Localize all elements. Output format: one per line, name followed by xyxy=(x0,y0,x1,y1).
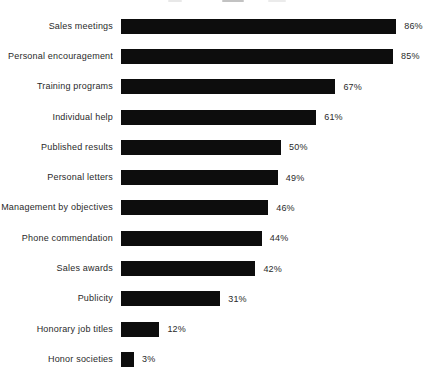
value-label: 67% xyxy=(343,82,362,92)
category-label: Sales awards xyxy=(0,263,113,274)
artifact-dash xyxy=(222,0,244,2)
chart-row: Publicity31% xyxy=(0,284,437,314)
bar xyxy=(121,200,268,215)
chart-row: Management by objectives46% xyxy=(0,193,437,223)
chart-row: Phone commendation44% xyxy=(0,223,437,253)
category-label: Publicity xyxy=(0,293,113,304)
bar-chart: Sales meetings86%Personal encouragement8… xyxy=(0,0,437,381)
value-label: 50% xyxy=(289,142,308,152)
bar xyxy=(121,140,281,155)
category-label: Phone commendation xyxy=(0,233,113,244)
cropped-title-artifact xyxy=(0,0,437,3)
value-label: 46% xyxy=(276,203,295,213)
category-label: Management by objectives xyxy=(0,202,113,213)
bar xyxy=(121,79,335,94)
category-label: Personal encouragement xyxy=(0,51,113,62)
category-label: Published results xyxy=(0,142,113,153)
chart-row: Sales meetings86% xyxy=(0,11,437,41)
bar xyxy=(121,291,220,306)
category-label: Personal letters xyxy=(0,172,113,183)
chart-row: Honorary job titles12% xyxy=(0,314,437,344)
artifact-dash xyxy=(268,0,286,2)
value-label: 42% xyxy=(263,264,282,274)
value-label: 44% xyxy=(270,233,289,243)
bar xyxy=(121,261,255,276)
chart-row: Individual help61% xyxy=(0,102,437,132)
value-label: 49% xyxy=(286,173,305,183)
chart-row: Personal letters49% xyxy=(0,162,437,192)
value-label: 86% xyxy=(404,21,423,31)
bar xyxy=(121,110,316,125)
chart-row: Published results50% xyxy=(0,132,437,162)
bar xyxy=(121,322,159,337)
value-label: 85% xyxy=(401,51,420,61)
chart-row: Honor societies3% xyxy=(0,344,437,374)
chart-row: Sales awards42% xyxy=(0,253,437,283)
value-label: 3% xyxy=(142,354,155,364)
category-label: Sales meetings xyxy=(0,21,113,32)
value-label: 31% xyxy=(228,294,247,304)
category-label: Honor societies xyxy=(0,354,113,365)
chart-row: Personal encouragement85% xyxy=(0,41,437,71)
category-label: Individual help xyxy=(0,112,113,123)
bar xyxy=(121,352,134,367)
artifact-dash xyxy=(168,0,182,2)
bar xyxy=(121,231,262,246)
bar xyxy=(121,170,278,185)
chart-rows: Sales meetings86%Personal encouragement8… xyxy=(0,11,437,375)
chart-row: Training programs67% xyxy=(0,72,437,102)
category-label: Training programs xyxy=(0,81,113,92)
category-label: Honorary job titles xyxy=(0,324,113,335)
bar xyxy=(121,19,396,34)
bar xyxy=(121,49,393,64)
value-label: 61% xyxy=(324,112,343,122)
value-label: 12% xyxy=(167,324,186,334)
